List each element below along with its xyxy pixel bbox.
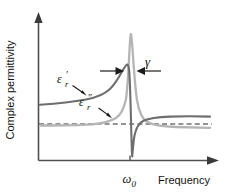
epsilon-imag-symbol: ε xyxy=(79,95,84,109)
chart-canvas: Complex permittivity Frequency ω 0 ε ′ r… xyxy=(0,0,231,196)
omega-symbol: ω xyxy=(123,172,132,186)
epsilon-real-subscript: r xyxy=(65,79,69,89)
y-axis-arrowhead xyxy=(34,12,42,23)
y-axis-title: Complex permittivity xyxy=(4,40,16,140)
x-axis-title: Frequency xyxy=(158,174,210,186)
epsilon-imag-leader xyxy=(99,108,113,118)
gamma-linewidth-arrows xyxy=(100,67,161,75)
x-axis-arrowhead xyxy=(207,156,219,165)
epsilon-real-label: ε ′ r xyxy=(57,69,69,89)
gamma-label: γ xyxy=(145,54,151,69)
x-axis xyxy=(39,156,220,165)
epsilon-imag-leader-arrowhead xyxy=(106,113,112,119)
y-axis xyxy=(34,12,42,161)
omega-subscript: 0 xyxy=(132,179,137,189)
gamma-right-arrowhead xyxy=(137,67,146,75)
epsilon-imag-subscript: r xyxy=(87,102,91,112)
complex-permittivity-chart: Complex permittivity Frequency ω 0 ε ′ r… xyxy=(0,0,231,196)
x-tick-label-omega0: ω 0 xyxy=(123,172,137,189)
epsilon-real-symbol: ε xyxy=(57,72,62,86)
